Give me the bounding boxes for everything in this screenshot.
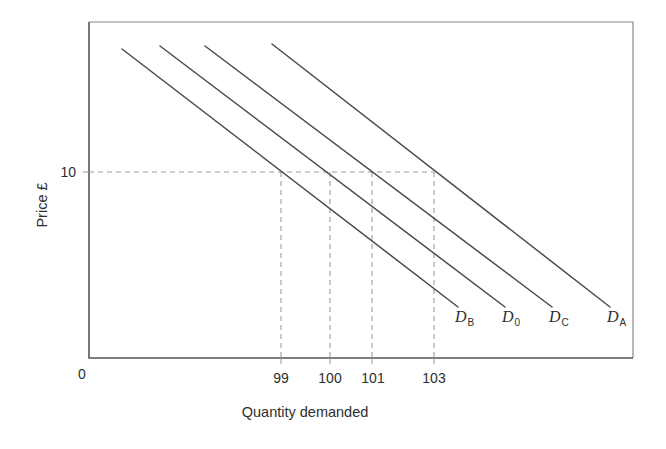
y-tick-label-10: 10 (60, 164, 76, 180)
x-axis-title: Quantity demanded (242, 404, 369, 420)
x-tick-label-99: 99 (273, 370, 289, 386)
curve-label-a-sub: A (620, 317, 627, 328)
curve-label-c-sub: C (562, 317, 569, 328)
curve-label-b-sub: B (468, 317, 475, 328)
curve-label-c-main: D (548, 308, 561, 325)
origin-label: 0 (78, 366, 86, 382)
demand-curve-figure: DB D0 DC DA 10 0 99 100 101 103 Quantity… (0, 0, 666, 449)
curve-label-a-main: D (606, 308, 619, 325)
y-axis-title: Price £ (34, 182, 50, 227)
curve-label-0-main: D (501, 308, 514, 325)
x-tick-label-101: 101 (361, 370, 385, 386)
x-tick-label-100: 100 (318, 370, 342, 386)
curve-label-0-sub: 0 (515, 317, 521, 328)
x-tick-label-103: 103 (422, 370, 446, 386)
demand-curve-chart-svg: DB D0 DC DA 10 0 99 100 101 103 Quantity… (0, 0, 666, 449)
curve-label-b-main: D (454, 308, 467, 325)
